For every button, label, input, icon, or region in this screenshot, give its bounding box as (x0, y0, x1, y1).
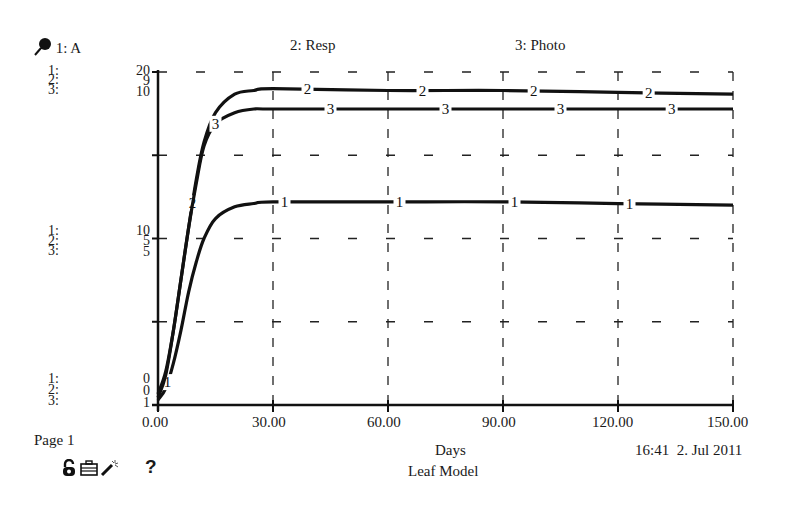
series-line-2 (158, 89, 733, 398)
x-tick-0: 0.00 (142, 415, 168, 430)
series-marker-1: 1 (511, 194, 519, 210)
series-marker-3: 3 (668, 101, 676, 117)
series-marker-1: 1 (281, 194, 289, 210)
series-marker-3: 3 (557, 101, 565, 117)
toolbox-icon[interactable] (80, 460, 98, 480)
series-marker-3: 3 (442, 101, 450, 117)
help-icon[interactable]: ? (145, 457, 157, 477)
x-axis-label: Days (435, 443, 466, 458)
magic-wand-icon[interactable] (100, 459, 120, 481)
x-tick-150: 150.00 (707, 415, 748, 430)
x-tick-90: 90.00 (482, 415, 516, 430)
page-indicator[interactable]: Page 1 (34, 433, 74, 448)
timestamp: 16:41 2. Jul 2011 (635, 443, 742, 458)
series-marker-1: 1 (626, 196, 634, 212)
series-marker-2: 2 (645, 85, 653, 101)
series-marker-3: 3 (327, 101, 335, 117)
series-marker-1: 1 (396, 194, 404, 210)
series-line-3 (158, 109, 733, 394)
model-name: Leaf Model (408, 464, 478, 479)
x-tick-60: 60.00 (367, 415, 401, 430)
series-marker-2: 2 (419, 83, 427, 99)
line-chart-plot: 111112222233333 (0, 0, 809, 505)
series-marker-2: 2 (304, 81, 312, 97)
series-marker-3: 3 (212, 116, 220, 132)
lock-open-icon[interactable] (62, 459, 76, 481)
series-line-1 (158, 202, 733, 400)
x-tick-120: 120.00 (592, 415, 633, 430)
series-marker-2: 2 (530, 83, 538, 99)
x-tick-30: 30.00 (252, 415, 286, 430)
